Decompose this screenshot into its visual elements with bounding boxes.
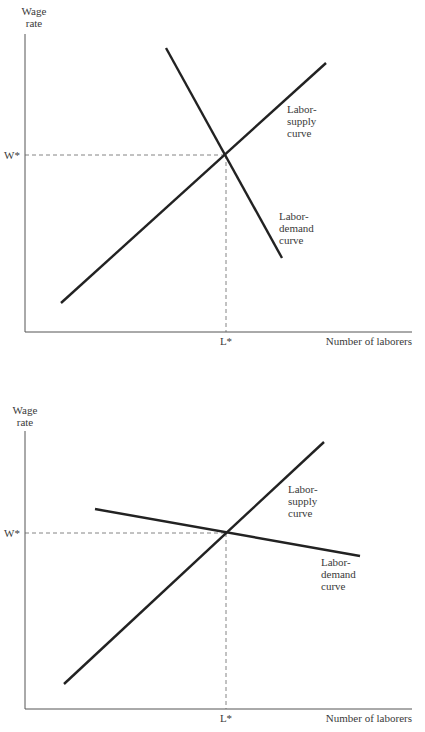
supply-curve-label-3: curve [287, 127, 312, 139]
y-axis-label-line2: rate [26, 17, 43, 29]
labor-demand-curve [95, 509, 360, 556]
demand-curve-label-3: curve [279, 234, 304, 246]
y-axis-label-line1: Wage [22, 5, 47, 17]
demand-curve-label-1: Labor- [321, 556, 351, 568]
x-axis-label: Number of laborers [326, 335, 412, 347]
supply-curve-label-3: curve [288, 507, 313, 519]
w-star-label: W* [4, 527, 20, 539]
w-star-label: W* [4, 149, 20, 161]
x-axis-label: Number of laborers [326, 712, 412, 724]
supply-curve-label-2: supply [288, 495, 318, 507]
labor-supply-curve [64, 442, 324, 684]
demand-curve-label-2: demand [279, 222, 314, 234]
l-star-label: L* [220, 335, 232, 347]
labor-market-chart-inelastic-demand: Wage rate W* L* Number of laborers Labor… [0, 0, 425, 360]
demand-curve-label-2: demand [321, 568, 356, 580]
demand-curve-label-3: curve [321, 580, 346, 592]
y-axis-label-line1: Wage [13, 404, 38, 416]
y-axis-label-line2: rate [17, 416, 34, 428]
supply-curve-label-2: supply [287, 115, 317, 127]
l-star-label: L* [220, 712, 232, 724]
labor-demand-curve [166, 48, 282, 258]
supply-curve-label-1: Labor- [287, 103, 317, 115]
supply-curve-label-1: Labor- [288, 483, 318, 495]
labor-market-chart-elastic-demand: Wage rate W* L* Number of laborers Labor… [0, 360, 425, 732]
demand-curve-label-1: Labor- [279, 210, 309, 222]
